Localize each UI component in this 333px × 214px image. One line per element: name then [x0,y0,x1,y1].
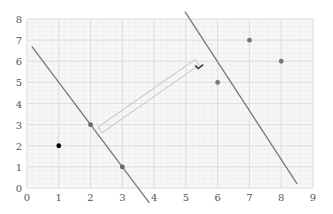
y-tick-label: 0 [16,183,22,194]
y-tick-label: 1 [16,162,22,173]
x-tick-label: 6 [214,192,220,203]
data-point [88,122,93,127]
y-tick-label: 4 [16,99,22,110]
y-tick-label: 3 [16,120,22,131]
x-tick-label: 0 [24,192,30,203]
scatter-chart: 0123456789 012345678 [0,0,333,214]
data-point [56,143,61,148]
x-tick-label: 8 [278,192,284,203]
x-tick-label: 3 [119,192,125,203]
x-tick-label: 2 [87,192,93,203]
y-tick-label: 2 [16,141,22,152]
x-tick-label: 7 [246,192,252,203]
data-point [247,38,252,43]
y-tick-label: 5 [16,77,22,88]
data-point [120,164,125,169]
x-tick-label: 9 [310,192,316,203]
x-tick-label: 5 [183,192,189,203]
x-tick-label: 1 [56,192,62,203]
y-axis-tick-labels: 012345678 [16,14,22,194]
data-point [279,59,284,64]
y-tick-label: 6 [16,56,22,67]
x-tick-label: 4 [151,192,157,203]
y-tick-label: 7 [16,35,22,46]
y-tick-label: 8 [16,14,22,25]
data-point [215,80,220,85]
x-axis-tick-labels: 0123456789 [24,192,316,203]
